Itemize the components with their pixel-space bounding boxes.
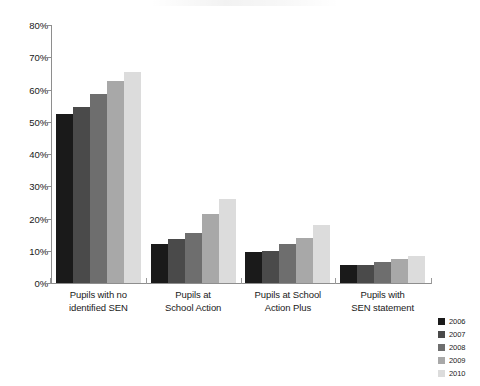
y-axis-tick-label: 70% xyxy=(0,52,48,63)
y-axis-tick-mark xyxy=(43,219,51,220)
y-axis-tick-label: 30% xyxy=(0,181,48,192)
bar xyxy=(262,251,279,283)
bar xyxy=(202,214,219,283)
y-axis-tick-mark xyxy=(43,154,51,155)
bar xyxy=(73,107,90,283)
bar xyxy=(340,265,357,283)
y-axis-tick-label: 10% xyxy=(0,245,48,256)
legend-item: 2010 xyxy=(438,367,465,380)
bar-group xyxy=(56,25,141,283)
bar xyxy=(185,233,202,283)
y-axis-tick-label: 40% xyxy=(0,149,48,160)
legend-swatch xyxy=(438,331,445,338)
bar xyxy=(219,199,236,283)
bar xyxy=(90,94,107,283)
bar-group xyxy=(151,25,236,283)
legend-swatch xyxy=(438,357,445,364)
page-scan-artifact xyxy=(150,0,340,6)
bar xyxy=(374,262,391,283)
legend-label: 2007 xyxy=(449,330,465,339)
y-axis-tick-label: 20% xyxy=(0,213,48,224)
bar-group xyxy=(245,25,330,283)
bars-layer xyxy=(51,25,431,283)
y-axis-tick-mark xyxy=(43,186,51,187)
x-axis-category-label: Pupils at SchoolAction Plus xyxy=(241,289,336,314)
bar xyxy=(168,239,185,283)
legend-swatch xyxy=(438,344,445,351)
y-axis-tick-label: 60% xyxy=(0,84,48,95)
y-axis-tick-mark xyxy=(43,25,51,26)
y-axis-tick-mark xyxy=(43,251,51,252)
bar xyxy=(391,259,408,283)
bar xyxy=(124,72,141,283)
bar-chart: 0%10%20%30%40%50%60%70%80% Pupils with n… xyxy=(0,0,480,386)
x-axis-category-label: Pupils withSEN statement xyxy=(335,289,430,314)
bar xyxy=(245,252,262,283)
y-axis-tick-mark xyxy=(43,90,51,91)
y-axis-tick-mark xyxy=(43,122,51,123)
y-axis-tick-label: 80% xyxy=(0,20,48,31)
x-axis-group-separator xyxy=(431,278,432,284)
legend-item: 2007 xyxy=(438,328,465,341)
bar xyxy=(296,238,313,283)
legend-label: 2010 xyxy=(449,369,465,378)
x-axis-category-label: Pupils atSchool Action xyxy=(146,289,241,314)
bar xyxy=(313,225,330,283)
legend-item: 2006 xyxy=(438,315,465,328)
bar-group xyxy=(340,25,425,283)
legend-item: 2008 xyxy=(438,341,465,354)
bar xyxy=(408,256,425,283)
bar xyxy=(56,114,73,283)
bar xyxy=(357,265,374,283)
legend-swatch xyxy=(438,318,445,325)
legend-swatch xyxy=(438,370,445,377)
x-axis-category-label: Pupils with noidentified SEN xyxy=(51,289,146,314)
legend-item: 2009 xyxy=(438,354,465,367)
bar xyxy=(107,81,124,283)
bar xyxy=(151,244,168,283)
y-axis-tick-label: 50% xyxy=(0,116,48,127)
legend-label: 2009 xyxy=(449,356,465,365)
y-axis-tick-label: 0% xyxy=(0,278,48,289)
bar xyxy=(279,244,296,283)
y-axis-tick-mark xyxy=(43,57,51,58)
legend-label: 2008 xyxy=(449,343,465,352)
legend-label: 2006 xyxy=(449,317,465,326)
legend: 20062007200820092010 xyxy=(438,315,465,380)
